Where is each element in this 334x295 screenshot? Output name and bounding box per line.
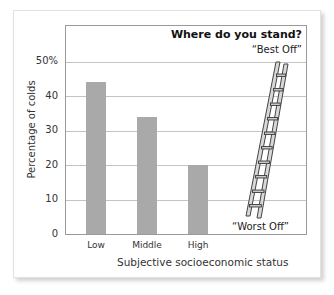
x-tick-label: High [173, 240, 223, 250]
bar-high [188, 165, 208, 234]
y-tick-label: 50% [28, 55, 58, 66]
y-axis-label: Percentage of colds [26, 70, 37, 190]
ladder-icon [238, 58, 298, 223]
best-off-label: “Best Off” [252, 44, 302, 55]
x-axis-label: Subjective socioeconomic status [117, 256, 288, 268]
y-tick-label: 0 [28, 228, 58, 239]
bar-middle [137, 117, 157, 235]
bar-low [86, 82, 106, 234]
x-tick-label: Low [71, 240, 121, 250]
chart-title: Where do you stand? [171, 28, 302, 41]
x-tick-label: Middle [122, 240, 172, 250]
y-tick-label: 10 [28, 193, 58, 204]
